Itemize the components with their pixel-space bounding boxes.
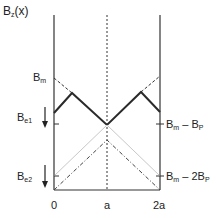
label-bm-minus-bp: Bm – BP [166,119,203,131]
label-be1: Be1 [17,112,32,124]
label-bm-minus-2bp: Bm – 2BP [166,171,210,183]
upper-dashed-right [141,76,160,92]
x-tick-0: 0 [51,200,57,211]
label-bm: Bm [33,72,46,84]
x-tick-a: a [104,200,110,211]
label-be2: Be2 [17,171,32,183]
arrow-down-icon [42,165,48,188]
field-profile-diagram [0,0,217,218]
upper-dashed-left [54,78,72,93]
y-axis-title: Bz(x) [3,6,29,18]
arrow-down-icon [42,107,48,128]
x-tick-2a: 2a [153,200,165,211]
